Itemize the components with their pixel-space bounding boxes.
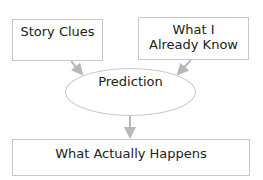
arrow-clues-to-prediction bbox=[71, 61, 82, 74]
what-i-already-know-label-line2: Already Know bbox=[139, 37, 248, 52]
what-i-already-know-label-line1: What I bbox=[139, 22, 248, 37]
story-clues-label: Story Clues bbox=[20, 24, 94, 39]
prediction-label: Prediction bbox=[98, 74, 163, 89]
story-clues-box: Story Clues bbox=[12, 19, 103, 61]
arrow-know-to-prediction bbox=[178, 60, 191, 74]
what-actually-happens-label: What Actually Happens bbox=[55, 146, 207, 161]
what-actually-happens-box: What Actually Happens bbox=[12, 139, 250, 176]
what-i-already-know-box: What I Already Know bbox=[138, 17, 249, 60]
prediction-ellipse: Prediction bbox=[65, 68, 196, 116]
